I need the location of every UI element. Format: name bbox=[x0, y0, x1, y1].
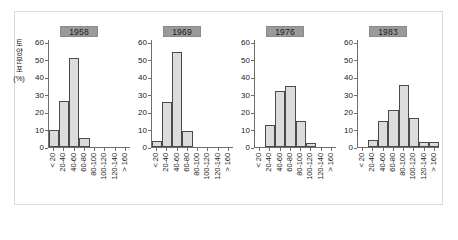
x-tick-mark bbox=[372, 148, 373, 151]
y-tick-label: 40 bbox=[241, 73, 250, 82]
plot-area-2 bbox=[254, 40, 336, 148]
x-tick-label: 20-40 bbox=[162, 153, 170, 172]
x-tick-mark bbox=[290, 148, 291, 151]
bar-slot bbox=[388, 40, 398, 147]
x-tick-label: 80-100 bbox=[90, 153, 98, 176]
x-tick-label: 120-140 bbox=[111, 153, 119, 180]
y-tick-label: 10 bbox=[138, 126, 147, 135]
x-tick: 20-40 bbox=[58, 148, 68, 204]
x-tick: 100-120 bbox=[305, 148, 315, 204]
x-tick-label: 120-140 bbox=[317, 153, 325, 180]
x-tick-label: 60-80 bbox=[389, 153, 397, 172]
y-tick-label: 10 bbox=[344, 126, 353, 135]
x-tick-mark bbox=[280, 148, 281, 151]
x-tick-label: 100-120 bbox=[100, 153, 108, 180]
bar-slot bbox=[255, 40, 265, 147]
bar bbox=[368, 140, 378, 147]
bar-slot bbox=[162, 40, 172, 147]
x-tick-label: > 160 bbox=[327, 153, 335, 171]
x-tick: 20-40 bbox=[264, 148, 274, 204]
bar-slot bbox=[90, 40, 100, 147]
bar-group-0 bbox=[49, 40, 130, 147]
bar-slot bbox=[193, 40, 203, 147]
x-tick-mark bbox=[403, 148, 404, 151]
y-tick-label: 0 bbox=[143, 143, 147, 152]
x-tick-label: > 160 bbox=[121, 153, 129, 171]
x-tick-label: 60-80 bbox=[183, 153, 191, 172]
x-tick-label: 100-120 bbox=[203, 153, 211, 180]
x-tick: > 160 bbox=[429, 148, 439, 204]
bar bbox=[69, 58, 79, 147]
y-axis-title-char-4: 포 bbox=[13, 66, 25, 75]
x-tick-label: < 20 bbox=[152, 153, 160, 167]
plot-area-3 bbox=[357, 40, 439, 148]
x-tick: 20-40 bbox=[367, 148, 377, 204]
x-tick-mark bbox=[424, 148, 425, 151]
y-axis-0: 0102030405060 bbox=[26, 40, 48, 148]
panel-strip-1: 1969 bbox=[163, 26, 201, 37]
bar-slot bbox=[419, 40, 429, 147]
x-tick: < 20 bbox=[151, 148, 161, 204]
y-tick-label: 20 bbox=[344, 108, 353, 117]
bar-slot bbox=[358, 40, 368, 147]
panel-1983: 0102030405060 < 2020-4040-6060-8080-1001… bbox=[335, 40, 445, 158]
y-axis-3: 0102030405060 bbox=[335, 40, 357, 148]
bar bbox=[49, 130, 59, 147]
bar-group-2 bbox=[255, 40, 336, 147]
x-tick-label: 120-140 bbox=[420, 153, 428, 180]
y-tick-label: 30 bbox=[344, 91, 353, 100]
bar-slot bbox=[265, 40, 275, 147]
y-tick-label: 20 bbox=[138, 108, 147, 117]
x-tick-mark bbox=[218, 148, 219, 151]
x-tick-label: 120-140 bbox=[214, 153, 222, 180]
panel-1976: 0102030405060 < 2020-4040-6060-8080-1001… bbox=[232, 40, 342, 158]
panel-strip-label-2: 1976 bbox=[275, 27, 295, 37]
x-tick: 40-60 bbox=[69, 148, 79, 204]
panel-strip-3: 1983 bbox=[369, 26, 407, 37]
panel-strip-2: 1976 bbox=[266, 26, 304, 37]
y-tick-label: 20 bbox=[35, 108, 44, 117]
x-tick-mark bbox=[187, 148, 188, 151]
x-tick: 120-140 bbox=[110, 148, 120, 204]
x-axis-0: < 2020-4040-6060-8080-100100-120120-140>… bbox=[48, 148, 130, 204]
bar-slot bbox=[378, 40, 388, 147]
x-tick-mark bbox=[269, 148, 270, 151]
y-tick-label: 0 bbox=[349, 143, 353, 152]
bar bbox=[306, 143, 316, 147]
panel-1958: 0102030405060 < 2020-4040-6060-8080-1001… bbox=[26, 40, 136, 158]
panel-strip-label-1: 1969 bbox=[172, 27, 192, 37]
bar bbox=[79, 138, 89, 147]
bar bbox=[275, 91, 285, 147]
bar-slot bbox=[316, 40, 326, 147]
x-tick: < 20 bbox=[254, 148, 264, 204]
y-axis-unit: (%) bbox=[13, 75, 25, 84]
bar-slot bbox=[399, 40, 409, 147]
y-tick-label: 40 bbox=[35, 73, 44, 82]
x-tick-label: 20-40 bbox=[368, 153, 376, 172]
bar bbox=[419, 142, 429, 147]
bar-slot bbox=[306, 40, 316, 147]
bar-group-3 bbox=[358, 40, 439, 147]
x-tick-label: 80-100 bbox=[399, 153, 407, 176]
bar-slot bbox=[79, 40, 89, 147]
x-tick-mark bbox=[63, 148, 64, 151]
bar-slot bbox=[59, 40, 69, 147]
bar bbox=[399, 85, 409, 147]
x-tick-label: 40-60 bbox=[379, 153, 387, 172]
x-tick-mark bbox=[53, 148, 54, 151]
y-tick-label: 30 bbox=[241, 91, 250, 100]
y-tick-label: 30 bbox=[35, 91, 44, 100]
bar-slot bbox=[296, 40, 306, 147]
bar bbox=[59, 101, 69, 147]
bar-slot bbox=[49, 40, 59, 147]
x-tick-mark bbox=[413, 148, 414, 151]
x-tick-mark bbox=[125, 148, 126, 151]
x-tick-label: 40-60 bbox=[276, 153, 284, 172]
y-tick-label: 10 bbox=[35, 126, 44, 135]
x-tick-label: 80-100 bbox=[193, 153, 201, 176]
panel-strip-label-0: 1958 bbox=[69, 27, 89, 37]
x-tick: 80-100 bbox=[398, 148, 408, 204]
x-axis-3: < 2020-4040-6060-8080-100100-120120-140>… bbox=[357, 148, 439, 204]
bar bbox=[388, 110, 398, 147]
x-tick: 40-60 bbox=[378, 148, 388, 204]
